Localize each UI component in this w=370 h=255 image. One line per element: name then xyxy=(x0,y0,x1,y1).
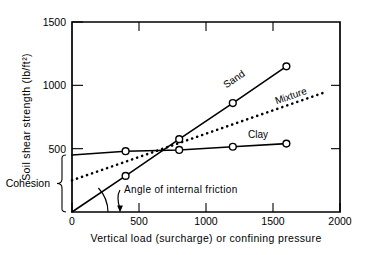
data-point xyxy=(229,143,236,150)
data-point xyxy=(122,148,129,155)
y-tick-label-500: 500 xyxy=(48,143,66,155)
cohesion-label: Cohesion xyxy=(6,177,51,189)
x-tick-label-2000: 2000 xyxy=(328,215,352,227)
data-point xyxy=(229,100,236,107)
data-point xyxy=(283,63,290,70)
y-axis-title: Soil shear strength (lb/ft²) xyxy=(20,53,32,181)
x-tick-label-500: 500 xyxy=(130,215,148,227)
chart-svg: 1500 1000 500 0 500 1000 1500 2000 Verti… xyxy=(0,0,370,255)
series-mixture xyxy=(72,92,327,181)
y-tick-label-1000: 1000 xyxy=(43,79,67,91)
soil-shear-strength-chart: 1500 1000 500 0 500 1000 1500 2000 Verti… xyxy=(0,0,370,255)
series-label-sand: Sand xyxy=(221,68,247,90)
x-axis-title: Vertical load (surcharge) or confining p… xyxy=(90,232,321,244)
data-point xyxy=(176,147,183,154)
data-point xyxy=(283,140,290,147)
data-point xyxy=(122,173,129,180)
x-tick-label-1500: 1500 xyxy=(261,215,285,227)
y-axis-ticks xyxy=(72,22,83,149)
x-tick-label-1000: 1000 xyxy=(194,215,218,227)
x-tick-label-0: 0 xyxy=(69,215,75,227)
data-point xyxy=(176,136,183,143)
series-label-clay: Clay xyxy=(248,129,268,140)
y-tick-label-1500: 1500 xyxy=(43,16,67,28)
right-axis-ticks xyxy=(331,85,340,148)
angle-of-internal-friction-annotation xyxy=(98,188,123,213)
x-tick-labels: 0 500 1000 1500 2000 xyxy=(69,215,352,227)
angle-of-internal-friction-label: Angle of internal friction xyxy=(124,184,238,195)
cohesion-brace xyxy=(57,155,66,212)
y-tick-labels: 1500 1000 500 xyxy=(43,16,67,155)
series-label-mixture: Mixture xyxy=(274,85,309,106)
